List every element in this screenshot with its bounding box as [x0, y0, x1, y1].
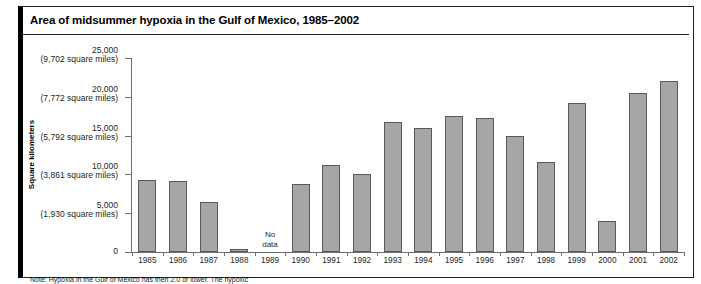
x-tick-label: 2000 — [592, 256, 623, 265]
bar-series: Nodata — [132, 58, 684, 252]
x-tick-mark — [623, 252, 624, 256]
x-tick-mark — [347, 252, 348, 256]
x-tick-mark — [684, 252, 685, 256]
bar — [568, 103, 586, 252]
x-tick-label: 1998 — [531, 256, 562, 265]
x-axis-labels: 1985198619871988198919901991199219931994… — [132, 256, 684, 270]
bar — [138, 180, 156, 252]
bar — [598, 221, 616, 252]
x-tick-label: 1999 — [561, 256, 592, 265]
y-tick-label: 0 — [0, 247, 122, 256]
bar — [414, 128, 432, 252]
x-tick-mark — [408, 252, 409, 256]
bar — [476, 118, 494, 252]
x-tick-mark — [285, 252, 286, 256]
x-tick-mark — [500, 252, 501, 256]
x-tick-label: 1991 — [316, 256, 347, 265]
bar — [322, 165, 340, 252]
bar — [200, 202, 218, 252]
x-tick-mark — [255, 252, 256, 256]
y-tick-label: 25,000(9,702 square miles) — [0, 46, 122, 64]
x-tick-label: 1990 — [285, 256, 316, 265]
y-tick-label: 10,000(3,861 square miles) — [0, 162, 122, 180]
x-tick-label: 1987 — [193, 256, 224, 265]
x-tick-label: 1994 — [408, 256, 439, 265]
no-data-label: Nodata — [250, 230, 290, 250]
bar — [629, 93, 647, 252]
x-tick-label: 1986 — [163, 256, 194, 265]
x-tick-mark — [592, 252, 593, 256]
x-tick-label: 1992 — [347, 256, 378, 265]
bar — [445, 116, 463, 252]
x-tick-mark — [377, 252, 378, 256]
y-axis-labels: 25,000(9,702 square miles)20,000(7,772 s… — [0, 0, 122, 284]
x-tick-mark — [439, 252, 440, 256]
x-tick-label: 1989 — [255, 256, 286, 265]
x-tick-label: 1997 — [500, 256, 531, 265]
x-tick-mark — [531, 252, 532, 256]
x-tick-mark — [224, 252, 225, 256]
x-tick-label: 2001 — [623, 256, 654, 265]
x-tick-label: 1985 — [132, 256, 163, 265]
x-tick-mark — [163, 252, 164, 256]
x-tick-mark — [653, 252, 654, 256]
figure-note: Note: Hypoxia in the Gulf of Mexico has … — [30, 276, 248, 283]
bar — [384, 122, 402, 252]
y-tick-label: 5,000(1,930 square miles) — [0, 201, 122, 219]
bar — [292, 184, 310, 252]
x-tick-mark — [469, 252, 470, 256]
bar — [506, 136, 524, 252]
x-tick-label: 2002 — [653, 256, 684, 265]
x-tick-mark — [132, 252, 133, 256]
figure-panel: Area of midsummer hypoxia in the Gulf of… — [0, 0, 701, 284]
bar — [660, 81, 678, 252]
bar — [169, 181, 187, 252]
bar — [230, 249, 248, 252]
x-tick-label: 1988 — [224, 256, 255, 265]
x-tick-mark — [316, 252, 317, 256]
x-tick-mark — [193, 252, 194, 256]
y-tick-label: 15,000(5,792 square miles) — [0, 124, 122, 142]
x-tick-label: 1995 — [439, 256, 470, 265]
bar — [353, 174, 371, 252]
x-tick-mark — [561, 252, 562, 256]
title-divider — [23, 34, 689, 35]
bar — [537, 162, 555, 252]
x-tick-label: 1996 — [469, 256, 500, 265]
plot-area: Nodata — [132, 58, 684, 252]
x-tick-label: 1993 — [377, 256, 408, 265]
y-tick-label: 20,000(7,772 square miles) — [0, 85, 122, 103]
